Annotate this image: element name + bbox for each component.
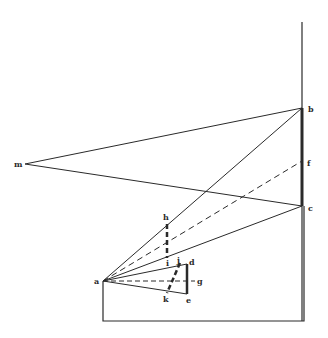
diagram-canvas: m b f c h i j d g e k a [0, 0, 328, 338]
label-f: f [307, 158, 311, 168]
label-k: k [163, 294, 169, 304]
line-ac [103, 206, 302, 281]
label-m: m [14, 159, 23, 169]
line-mc [25, 164, 302, 206]
label-a: a [94, 276, 99, 286]
label-g: g [197, 276, 203, 286]
label-e: e [186, 295, 191, 305]
label-b: b [308, 104, 314, 114]
label-i: i [166, 258, 169, 268]
base-frame [103, 206, 304, 321]
label-j: j [176, 255, 180, 265]
label-h: h [163, 212, 169, 222]
line-mb [25, 108, 302, 164]
label-d: d [189, 257, 195, 267]
label-c: c [308, 203, 313, 213]
line-ae [103, 281, 187, 294]
line-af-dashed [103, 161, 302, 281]
line-ab [103, 108, 302, 281]
